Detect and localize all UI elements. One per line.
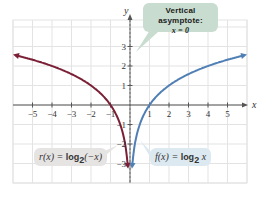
svg-text:y: y xyxy=(123,5,129,16)
svg-text:−1: −1 xyxy=(116,120,126,130)
svg-text:3: 3 xyxy=(122,42,127,52)
svg-text:4: 4 xyxy=(206,109,211,119)
log-graph: xy−5−4−3−2−112345−3−2−1123 xyxy=(0,0,258,197)
asymptote-title: Vertical asymptote: xyxy=(143,6,218,26)
svg-text:−4: −4 xyxy=(47,109,57,119)
asymptote-callout: Vertical asymptote: x = 0 xyxy=(143,3,218,32)
asymptote-equation: x = 0 xyxy=(143,26,218,36)
svg-text:2: 2 xyxy=(167,109,172,119)
svg-text:−3: −3 xyxy=(116,159,126,169)
svg-text:x: x xyxy=(251,99,257,110)
svg-text:−2: −2 xyxy=(116,139,126,149)
svg-text:1: 1 xyxy=(147,109,152,119)
svg-text:2: 2 xyxy=(122,61,127,71)
svg-text:−2: −2 xyxy=(86,109,96,119)
svg-text:−5: −5 xyxy=(28,109,38,119)
svg-text:5: 5 xyxy=(225,109,230,119)
svg-text:1: 1 xyxy=(122,81,127,91)
svg-text:−3: −3 xyxy=(67,109,77,119)
svg-text:−1: −1 xyxy=(106,109,116,119)
svg-text:3: 3 xyxy=(186,109,191,119)
f-function-label: f(x) = log2 x xyxy=(150,148,211,166)
r-function-label: r(x) = log2(−x) xyxy=(34,148,107,166)
